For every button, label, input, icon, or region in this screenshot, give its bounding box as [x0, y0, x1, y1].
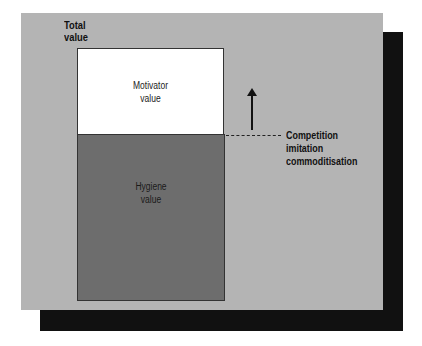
motivator-label-line: Motivator: [89, 79, 212, 92]
annotation-line: Competition: [286, 129, 357, 142]
hygiene-label-line: value: [89, 193, 213, 206]
total-label-line: value: [64, 31, 88, 43]
hygiene-label-line: Hygiene: [89, 180, 213, 193]
motivator-value-label: Motivator value: [89, 79, 212, 105]
hygiene-value-box: Hygiene value: [77, 134, 225, 301]
competition-annotation: Competition imitation commoditisation: [286, 129, 357, 168]
hygiene-value-label: Hygiene value: [89, 180, 213, 206]
motivator-label-line: value: [89, 92, 212, 105]
total-value-label: Total value: [64, 19, 88, 43]
annotation-line: imitation: [286, 142, 357, 155]
annotation-line: commoditisation: [286, 155, 357, 168]
total-label-line: Total: [64, 19, 88, 31]
dashed-leader-line: [226, 135, 281, 136]
arrow-shaft: [251, 94, 253, 130]
motivator-value-box: Motivator value: [77, 48, 224, 134]
